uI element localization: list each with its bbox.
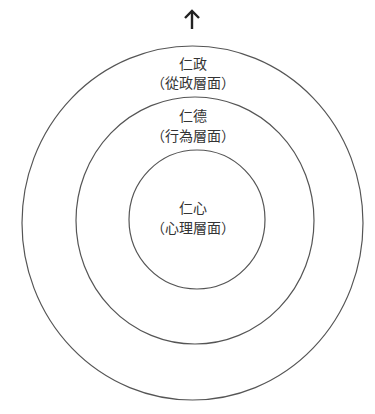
outer-ring-title: 仁政 — [0, 56, 375, 72]
inner-ring-subtitle: （心理層面） — [0, 220, 375, 236]
outer-ring-subtitle: （從政層面） — [0, 75, 375, 91]
middle-ring-subtitle: （行為層面） — [0, 128, 375, 144]
concentric-diagram: 仁政 （從政層面） 仁德 （行為層面） 仁心 （心理層面） — [0, 0, 375, 414]
inner-ring-title: 仁心 — [0, 200, 375, 216]
middle-ring-title: 仁德 — [0, 108, 375, 124]
